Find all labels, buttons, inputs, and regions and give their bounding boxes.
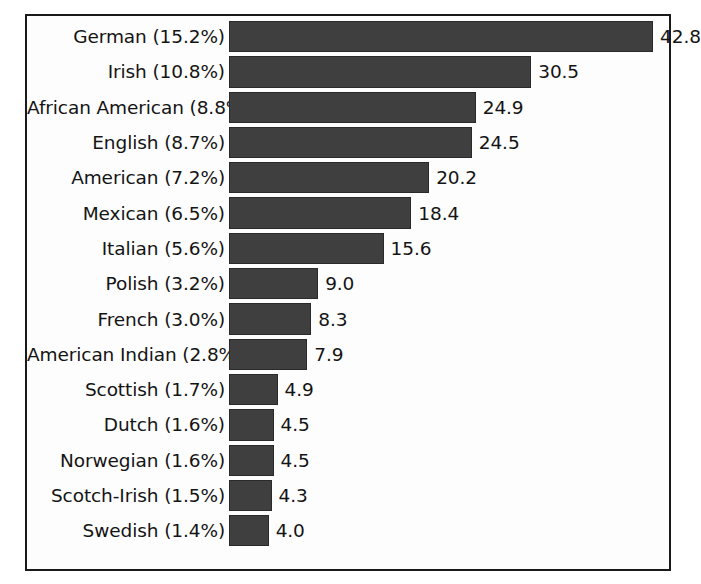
bar-row: Norwegian (1.6%)4.5 [27,443,669,478]
bar [229,515,269,546]
bar-row: Dutch (1.6%)4.5 [27,407,669,442]
bar [229,445,274,476]
bar-value-label: 42.8 [660,26,701,47]
bar-track: 15.6 [229,233,665,264]
bar [229,162,429,193]
bar-category-label: Scotch-Irish (1.5%) [27,485,225,506]
bar-category-label: American Indian (2.8%) [27,344,225,365]
bar-track: 4.0 [229,515,665,546]
bar-value-label: 18.4 [418,203,459,224]
bar-category-label: Dutch (1.6%) [27,414,225,435]
bar-value-label: 9.0 [325,273,354,294]
bar-value-label: 24.9 [483,97,524,118]
bar-category-label: Scottish (1.7%) [27,379,225,400]
bar-track: 7.9 [229,339,665,370]
bar [229,197,411,228]
bar-row: African American (8.8%)24.9 [27,90,669,125]
bar-value-label: 7.9 [314,344,343,365]
bar-category-label: German (15.2%) [27,26,225,47]
bar [229,92,476,123]
bar-value-label: 4.9 [285,379,314,400]
bar-row: Mexican (6.5%)18.4 [27,195,669,230]
bar-track: 4.5 [229,409,665,440]
bar-track: 9.0 [229,268,665,299]
bar-value-label: 4.0 [276,520,305,541]
bar-value-label: 8.3 [318,309,347,330]
bar-track: 4.5 [229,445,665,476]
bar [229,268,318,299]
bar [229,409,274,440]
bar [229,127,472,158]
bar-row: American (7.2%)20.2 [27,160,669,195]
bar-row: French (3.0%)8.3 [27,301,669,336]
bar [229,233,384,264]
bar-category-label: American (7.2%) [27,167,225,188]
bar-value-label: 15.6 [391,238,432,259]
bar [229,374,278,405]
bar-category-label: African American (8.8%) [27,97,225,118]
bar-category-label: Irish (10.8%) [27,61,225,82]
bar-category-label: French (3.0%) [27,309,225,330]
bar-row: American Indian (2.8%)7.9 [27,337,669,372]
bar [229,339,307,370]
bar-track: 42.8 [229,21,665,52]
bar-row: Italian (5.6%)15.6 [27,231,669,266]
bar-value-label: 30.5 [538,61,579,82]
bar [229,480,272,511]
bar-value-label: 20.2 [436,167,477,188]
bar [229,56,531,87]
bar [229,303,311,334]
bar-track: 20.2 [229,162,665,193]
bar [229,21,653,52]
bar-track: 18.4 [229,197,665,228]
bar-row: German (15.2%)42.8 [27,19,669,54]
bar-chart-plot-area: German (15.2%)42.8Irish (10.8%)30.5Afric… [27,16,669,569]
bar-row: Swedish (1.4%)4.0 [27,513,669,548]
bar-value-label: 4.3 [279,485,308,506]
bar-row: English (8.7%)24.5 [27,125,669,160]
bar-row: Scottish (1.7%)4.9 [27,372,669,407]
bar-track: 24.5 [229,127,665,158]
bar-category-label: Polish (3.2%) [27,273,225,294]
bar-value-label: 4.5 [281,450,310,471]
bar-track: 8.3 [229,303,665,334]
bar-track: 4.9 [229,374,665,405]
bar-track: 4.3 [229,480,665,511]
bar-row: Scotch-Irish (1.5%)4.3 [27,478,669,513]
bar-row: Polish (3.2%)9.0 [27,266,669,301]
bar-value-label: 4.5 [281,414,310,435]
bar-value-label: 24.5 [479,132,520,153]
bar-track: 24.9 [229,92,665,123]
bar-category-label: Italian (5.6%) [27,238,225,259]
bar-category-label: Norwegian (1.6%) [27,450,225,471]
chart-frame: German (15.2%)42.8Irish (10.8%)30.5Afric… [25,14,671,571]
bar-track: 30.5 [229,56,665,87]
bar-category-label: Swedish (1.4%) [27,520,225,541]
bar-row: Irish (10.8%)30.5 [27,54,669,89]
bar-category-label: Mexican (6.5%) [27,203,225,224]
bar-category-label: English (8.7%) [27,132,225,153]
